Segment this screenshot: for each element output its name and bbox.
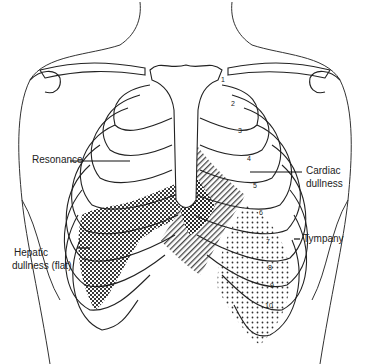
label-hepatic-dullness-line1: Hepatic	[14, 247, 48, 259]
label-hepatic-dullness-line2: dullness (flat)	[12, 260, 71, 272]
rib-number-10: 10	[265, 302, 273, 309]
rib-number-2: 2	[231, 100, 235, 107]
rib-number-8: 8	[268, 264, 272, 271]
tympany-area	[217, 205, 290, 345]
label-resonance: Resonance	[32, 154, 83, 166]
label-cardiac-dullness-line2: dullness	[306, 178, 343, 190]
rib-number-5: 5	[253, 182, 257, 189]
rib-number-9: 9	[270, 282, 274, 289]
label-tympany: Tympany	[303, 233, 344, 245]
label-cardiac-dullness-line1: Cardiac	[306, 165, 340, 177]
rib-number-7: 7	[266, 238, 270, 245]
rib-number-3: 3	[238, 127, 242, 134]
rib-number-1: 1	[221, 76, 225, 83]
rib-number-4: 4	[247, 155, 251, 162]
rib-number-6: 6	[259, 209, 263, 216]
